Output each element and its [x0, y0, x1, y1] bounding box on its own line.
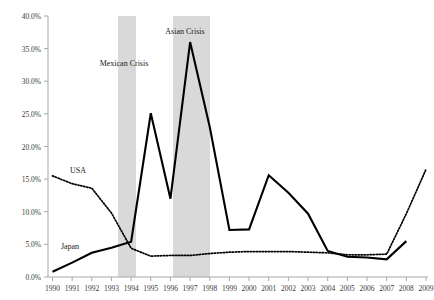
- x-tick-label: 2006: [360, 284, 375, 293]
- economic-crisis-line-chart: 40.0% 35.0% 30.0% 25.0% 20.0% 15.0% 10.0…: [0, 0, 434, 300]
- x-tick-label: 2008: [399, 284, 414, 293]
- x-tick-label: 2005: [340, 284, 355, 293]
- series-label-usa: USA: [70, 166, 86, 175]
- x-tick-label: 1998: [202, 284, 217, 293]
- x-tick-label: 2004: [320, 284, 335, 293]
- y-tick-label: 5.0%: [25, 240, 41, 249]
- x-tick-label: 2007: [379, 284, 394, 293]
- y-tick-label: 35.0%: [22, 45, 41, 54]
- y-tick-label: 40.0%: [22, 12, 41, 21]
- x-tick-label: 1990: [45, 284, 60, 293]
- shaded-band-mexican-crisis: [118, 16, 136, 277]
- data-series-group: [53, 42, 427, 272]
- shaded-band-asian-crisis: [173, 16, 210, 277]
- x-tick-label: 1991: [65, 284, 80, 293]
- chart-canvas: 40.0% 35.0% 30.0% 25.0% 20.0% 15.0% 10.0…: [0, 0, 434, 300]
- annotation-mexican-crisis: Mexican Crisis: [100, 59, 149, 68]
- y-tick-label: 20.0%: [22, 143, 41, 152]
- series-label-japan: Japan: [61, 242, 79, 251]
- y-tick-label: 25.0%: [22, 110, 41, 119]
- x-tick-label: 2000: [242, 284, 257, 293]
- x-tick-label: 1995: [143, 284, 158, 293]
- x-tick-label: 1994: [124, 284, 139, 293]
- x-tick-label: 1999: [222, 284, 237, 293]
- x-tick-label: 1996: [163, 284, 178, 293]
- annotation-asian-crisis: Asian Crisis: [165, 27, 204, 36]
- y-axis-ticks: [44, 16, 48, 277]
- x-tick-label: 2002: [281, 284, 296, 293]
- y-tick-label: 15.0%: [22, 175, 41, 184]
- y-tick-label: 0.0%: [25, 273, 41, 282]
- y-axis-tick-labels: 40.0% 35.0% 30.0% 25.0% 20.0% 15.0% 10.0…: [22, 12, 41, 282]
- x-tick-label: 1997: [183, 284, 198, 293]
- x-tick-label: 2009: [419, 284, 434, 293]
- x-axis-ticks-and-labels: 1990199119921993199419951996199719981999…: [45, 277, 434, 293]
- series-line-japan: [53, 42, 407, 272]
- x-tick-label: 2003: [301, 284, 316, 293]
- series-line-usa: [53, 169, 427, 256]
- x-tick-label: 1993: [104, 284, 119, 293]
- y-tick-label: 10.0%: [22, 208, 41, 217]
- x-tick-label: 1992: [84, 284, 99, 293]
- x-tick-label: 2001: [261, 284, 276, 293]
- y-tick-label: 30.0%: [22, 77, 41, 86]
